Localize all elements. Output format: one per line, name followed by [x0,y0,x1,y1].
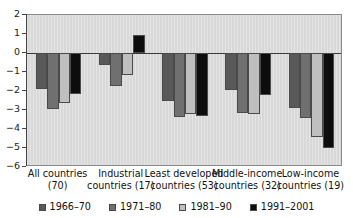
bar [47,53,58,109]
bar [110,53,121,86]
legend-item[interactable]: 1981–90 [179,202,231,212]
y-axis-tick [22,14,26,15]
category-label-line1: Low-income [282,168,340,179]
y-axis-tick [22,128,26,129]
y-axis-tick-label: −4 [0,123,20,133]
legend-swatch-icon [109,204,116,211]
y-axis-tick [22,90,26,91]
y-axis-tick [22,52,26,53]
legend-label: 1971–80 [120,202,161,212]
x-axis-category-label: Low-incomecountries (19) [271,168,350,192]
bar [174,53,185,117]
bar [162,53,173,101]
bar [237,53,248,113]
y-axis-tick [22,166,26,167]
bar [185,53,196,114]
bar-group [217,15,280,165]
y-axis-tick-label: 2 [0,9,20,19]
bar [133,35,144,53]
y-axis-tick-label: 0 [0,47,20,57]
category-label-line1: All countries [28,168,88,179]
y-axis-tick-label: −6 [0,161,20,171]
bar [323,53,334,148]
legend-label: 1981–90 [190,202,231,212]
x-axis-category-labels: All countries(70)Industrialcountries (17… [20,168,353,194]
y-axis-line [26,14,27,166]
y-axis-tick [22,71,26,72]
y-axis-tick-label: −1 [0,66,20,76]
bar-group [27,15,90,165]
y-axis-tick [22,109,26,110]
plot-area [26,14,342,166]
bar [289,53,300,108]
bar [248,53,259,114]
legend-item[interactable]: 1971–80 [109,202,161,212]
y-axis-tick [22,33,26,34]
legend-label: 1991–2001 [261,202,315,212]
bar [260,53,271,95]
bar [225,53,236,90]
chart-legend: 1966–701971–801981–901991–2001 [0,198,353,216]
legend-label: 1966–70 [50,202,91,212]
legend-swatch-icon [179,204,186,211]
legend-swatch-icon [39,204,46,211]
category-label-line1: Industrial [98,168,143,179]
legend-item[interactable]: 1991–2001 [250,202,315,212]
bar [99,53,110,65]
bar-group [90,15,153,165]
bar [196,53,207,116]
bar [311,53,322,137]
y-axis-tick-label: −5 [0,142,20,152]
bar [36,53,47,89]
y-axis-tick [22,147,26,148]
y-axis-tick-label: 1 [0,28,20,38]
y-axis-tick-label: −2 [0,85,20,95]
y-axis-tick-label: −3 [0,104,20,114]
legend-swatch-icon [250,204,257,211]
legend-item[interactable]: 1966–70 [39,202,91,212]
bar [300,53,311,118]
bar [70,53,81,94]
bar [122,53,133,75]
bar [59,53,70,103]
bar-chart: 210−1−2−3−4−5−6 All countries(70)Industr… [0,0,353,218]
category-label-line2: countries (19) [271,180,350,192]
bar-group [153,15,216,165]
bar-group [280,15,342,165]
